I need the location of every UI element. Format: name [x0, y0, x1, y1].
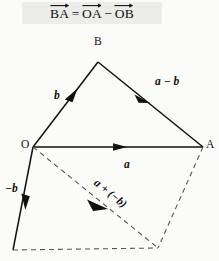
arrowhead-oa-icon — [113, 143, 127, 151]
segment-ob — [33, 62, 98, 147]
vertex-label-b: B — [94, 36, 102, 48]
segment-ba — [98, 62, 203, 147]
vector-label-minus-b: −b — [5, 183, 18, 195]
vector-label-a: a — [124, 159, 130, 171]
vertex-label-a: A — [206, 139, 214, 151]
vertex-label-o: O — [21, 139, 29, 151]
segment-a-to-c — [158, 147, 203, 248]
arrowhead-ob-icon — [65, 89, 78, 103]
segment-resultant — [33, 147, 158, 248]
vector-diagram-figure: BA=OA−OB O A B b a a − b −b a + (−b) — [0, 0, 219, 261]
vector-label-b: b — [54, 90, 60, 102]
vector-label-a-minus-b: a − b — [155, 76, 179, 88]
vector-diagram-svg — [0, 0, 219, 261]
segment-d-to-c — [13, 248, 158, 250]
